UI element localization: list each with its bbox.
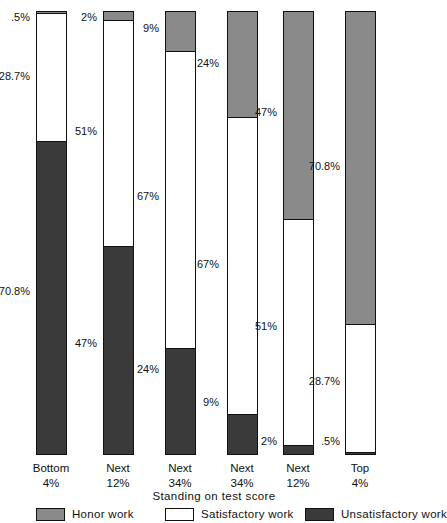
legend-item-satisfactory-work[interactable]: Satisfactory work	[165, 505, 294, 523]
segment-honor-work[interactable]	[166, 12, 195, 52]
value-label-b3-honor: 9%	[125, 22, 159, 34]
value-label-b6-unsatisfactory: .5%	[306, 435, 340, 447]
value-label-b6-honor: 70.8%	[296, 160, 340, 172]
segment-satisfactory-work[interactable]	[104, 21, 133, 246]
value-label-b5-unsatisfactory: 2%	[243, 435, 277, 447]
value-label-b5-honor: 47%	[243, 106, 277, 118]
legend-label-satisfactory-work: Satisfactory work	[201, 508, 294, 521]
value-label-b4-unsatisfactory: 9%	[185, 396, 219, 408]
legend-label-unsatisfactory-work: Unsatisfactory work	[341, 508, 447, 521]
bar-group-bottom-4[interactable]	[36, 11, 67, 455]
bar-group-top-4[interactable]	[345, 11, 376, 455]
segment-satisfactory-work[interactable]	[228, 118, 257, 414]
value-label-b4-satisfactory: 67%	[185, 258, 219, 270]
legend-item-unsatisfactory-work[interactable]: Unsatisfactory work	[305, 505, 447, 523]
bar-stack[interactable]	[165, 11, 196, 455]
category-label-line-1: Top	[317, 461, 403, 476]
value-label-b1-honor: .5%	[0, 11, 30, 23]
value-label-b6-satisfactory: 28.7%	[296, 375, 340, 387]
value-label-b4-honor: 24%	[185, 57, 219, 69]
segment-honor-work[interactable]	[284, 12, 313, 220]
bar-stack[interactable]	[283, 11, 314, 455]
legend-swatch-unsatisfactory-icon	[305, 508, 334, 521]
category-label-line-2: 4%	[317, 476, 403, 491]
segment-satisfactory-work[interactable]	[346, 325, 375, 452]
segment-satisfactory-work[interactable]	[166, 52, 195, 348]
bar-group-next-34-high[interactable]	[227, 11, 258, 455]
segment-satisfactory-work[interactable]	[284, 220, 313, 445]
bar-group-next-34-low[interactable]	[165, 11, 196, 455]
value-label-b3-satisfactory: 67%	[137, 190, 159, 202]
plot-area: .5% 28.7% 70.8% 2% 51% 47% 9% 67% 24%	[0, 0, 428, 465]
segment-honor-work[interactable]	[104, 12, 133, 21]
bar-stack[interactable]	[227, 11, 258, 455]
bar-stack[interactable]	[103, 11, 134, 455]
value-label-b2-unsatisfactory: 47%	[75, 337, 97, 349]
segment-unsatisfactory-work[interactable]	[37, 141, 66, 454]
value-label-b1-satisfactory: 28.7%	[0, 70, 30, 82]
segment-unsatisfactory-work[interactable]	[104, 246, 133, 454]
segment-honor-work[interactable]	[228, 12, 257, 118]
legend-item-honor-work[interactable]: Honor work	[36, 505, 134, 523]
x-axis-title: Standing on test score	[0, 490, 428, 502]
value-label-b3-unsatisfactory: 24%	[137, 363, 159, 375]
segment-unsatisfactory-work[interactable]	[346, 452, 375, 454]
bar-stack[interactable]	[345, 11, 376, 455]
value-label-b1-unsatisfactory: 70.8%	[0, 285, 30, 297]
legend-label-honor-work: Honor work	[72, 508, 134, 521]
legend-swatch-honor-icon	[36, 508, 65, 521]
value-label-b2-satisfactory: 51%	[75, 125, 97, 137]
segment-satisfactory-work[interactable]	[37, 14, 66, 141]
value-label-b2-honor: 2%	[63, 11, 97, 23]
bar-group-next-12-low[interactable]	[103, 11, 134, 455]
bar-stack[interactable]	[36, 11, 67, 455]
category-label-top-4: Top 4%	[317, 461, 403, 491]
legend-swatch-satisfactory-icon	[165, 508, 194, 521]
segment-honor-work[interactable]	[346, 12, 375, 325]
legend: Honor work Satisfactory work Unsatisfact…	[0, 505, 428, 523]
value-label-b5-satisfactory: 51%	[243, 320, 277, 332]
bar-group-next-12-high[interactable]	[283, 11, 314, 455]
